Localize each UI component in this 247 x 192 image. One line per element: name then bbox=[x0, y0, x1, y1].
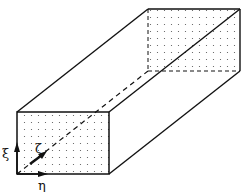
xi-label: ξ bbox=[2, 146, 9, 161]
back-face bbox=[148, 9, 240, 71]
eta-label: η bbox=[38, 178, 46, 192]
zeta-label: ζ bbox=[35, 141, 42, 156]
duct-diagram: ξ η ζ bbox=[0, 0, 247, 192]
